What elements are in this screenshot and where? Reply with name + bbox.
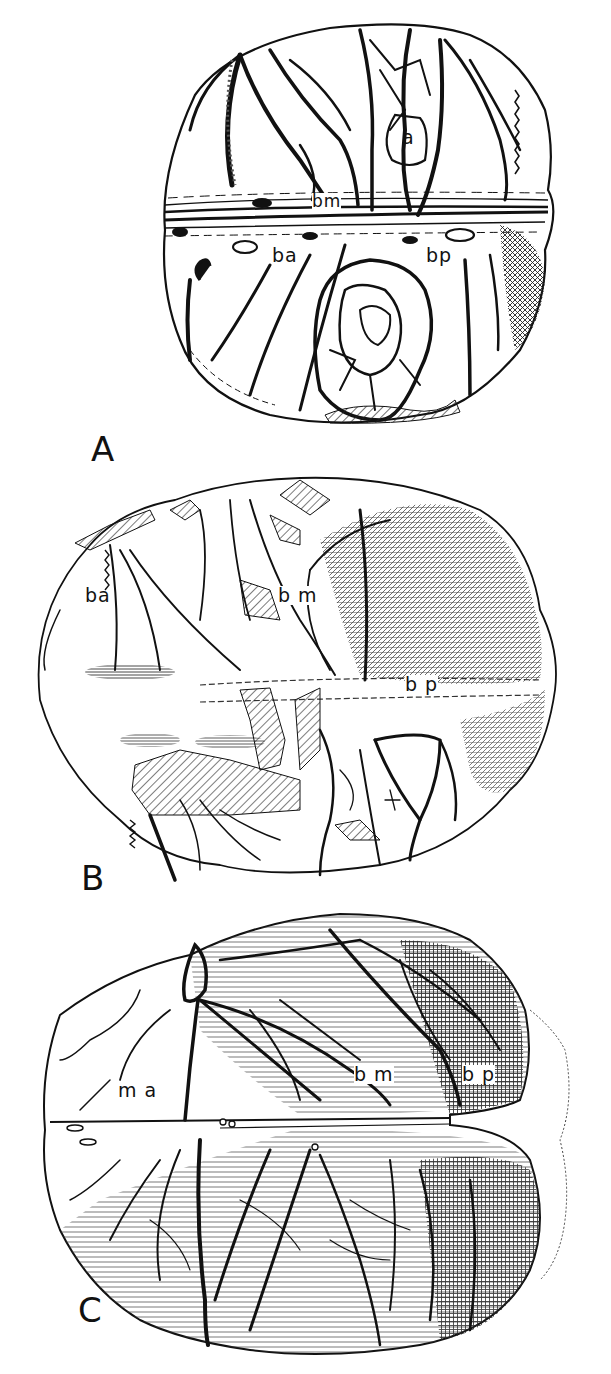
label-ma: m a xyxy=(118,1081,157,1100)
label-ba: ba xyxy=(85,586,111,605)
label-bm: b m xyxy=(354,1065,394,1084)
label-bm: bm xyxy=(312,193,341,210)
panel-b: ba b m b p B xyxy=(0,470,611,900)
panel-letter-b: B xyxy=(81,861,104,895)
specimen-b-drawing xyxy=(0,470,611,900)
label-bp: b p xyxy=(462,1065,495,1084)
label-ba: ba xyxy=(272,246,298,265)
panel-c: m a b m b p C xyxy=(0,900,611,1374)
panel-letter-c: C xyxy=(78,1293,102,1327)
label-bm: b m xyxy=(278,586,318,605)
label-bp: b p xyxy=(405,675,438,694)
panel-letter-a: A xyxy=(91,432,114,466)
label-a: a xyxy=(402,128,415,147)
specimen-a-drawing xyxy=(0,0,611,470)
panel-a: a bm ba bp A xyxy=(0,0,611,470)
label-bp: bp xyxy=(426,246,452,265)
